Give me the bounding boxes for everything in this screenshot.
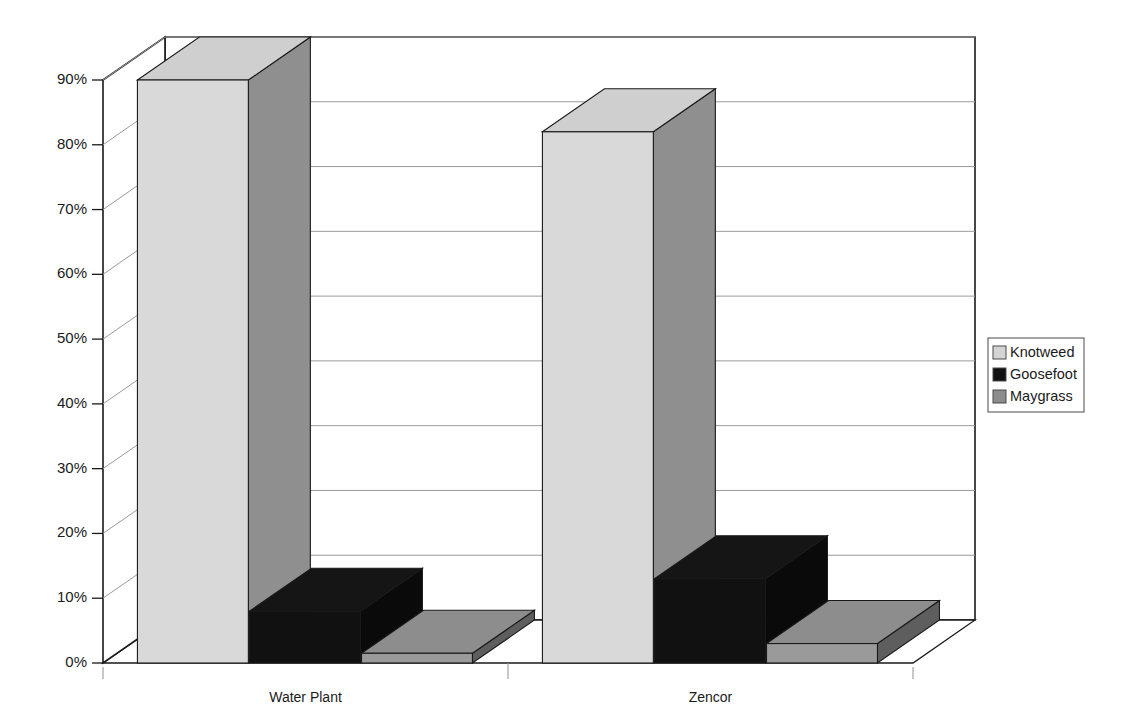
y-tick-label: 90%: [57, 70, 87, 87]
x-category-label: Zencor: [689, 689, 733, 705]
bar-front-face: [249, 611, 360, 663]
legend: KnotweedGoosefootMaygrass: [988, 338, 1084, 412]
y-tick-label: 30%: [57, 459, 87, 476]
bar-front-face: [137, 80, 248, 663]
legend-item-label: Knotweed: [1010, 344, 1075, 360]
x-category-label: Water Plant: [269, 689, 342, 705]
y-axis: 0%10%20%30%40%50%60%70%80%90%: [57, 70, 103, 670]
legend-item-label: Goosefoot: [1010, 366, 1077, 382]
y-tick-label: 70%: [57, 200, 87, 217]
y-tick-label: 50%: [57, 329, 87, 346]
y-tick-label: 80%: [57, 135, 87, 152]
y-tick-label: 0%: [65, 653, 87, 670]
y-tick-label: 20%: [57, 523, 87, 540]
chart-container: 0%10%20%30%40%50%60%70%80%90% Water Plan…: [0, 0, 1136, 722]
legend-swatch: [993, 346, 1006, 359]
y-tick-label: 60%: [57, 264, 87, 281]
y-tick-label: 40%: [57, 394, 87, 411]
bar-front-face: [767, 644, 878, 663]
x-axis: Water PlantZencor: [103, 663, 913, 705]
legend-swatch: [993, 368, 1006, 381]
bar-side-face: [248, 37, 310, 663]
y-tick-label: 10%: [57, 588, 87, 605]
bar-chart-3d: 0%10%20%30%40%50%60%70%80%90% Water Plan…: [0, 0, 1136, 722]
legend-swatch: [993, 390, 1006, 403]
legend-item[interactable]: Goosefoot: [993, 366, 1077, 382]
bar-front-face: [362, 653, 473, 663]
legend-item-label: Maygrass: [1010, 388, 1073, 404]
legend-item[interactable]: Maygrass: [993, 388, 1073, 404]
bar-front-face: [542, 132, 653, 663]
legend-item[interactable]: Knotweed: [993, 344, 1075, 360]
bar-knotweed-water-plant: [137, 37, 310, 663]
bar-front-face: [654, 579, 765, 663]
